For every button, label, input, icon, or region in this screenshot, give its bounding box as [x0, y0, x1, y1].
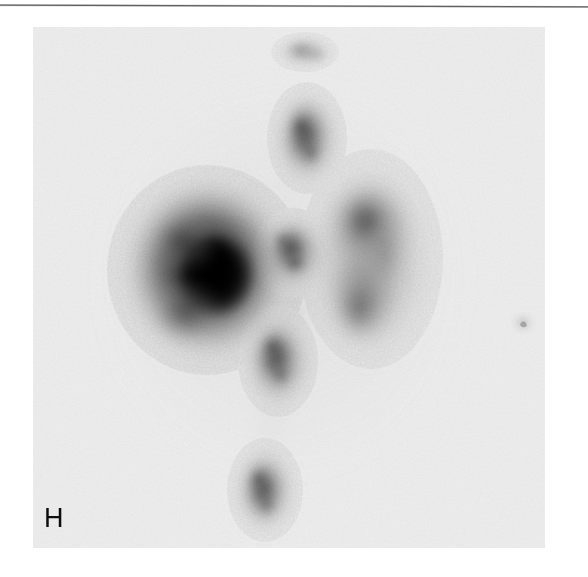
orientation-label-h: H	[44, 505, 64, 532]
top-horizontal-rule	[0, 4, 588, 8]
film-grain	[33, 27, 545, 548]
page-canvas: H	[0, 0, 588, 577]
top-rule-graphic	[0, 4, 588, 8]
scintigram-image: H	[33, 27, 545, 548]
